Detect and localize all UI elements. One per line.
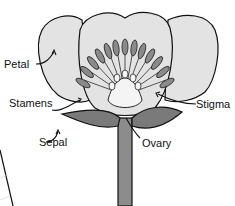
sepal-left bbox=[62, 110, 120, 127]
stem bbox=[118, 118, 132, 206]
label-ovary: Ovary bbox=[142, 138, 171, 149]
label-petal: Petal bbox=[4, 59, 29, 70]
label-sepal: Sepal bbox=[39, 137, 67, 148]
label-stigma: Stigma bbox=[196, 99, 230, 110]
page-edge bbox=[0, 150, 13, 206]
label-stamens: Stamens bbox=[9, 98, 52, 109]
petal-right bbox=[165, 15, 218, 101]
